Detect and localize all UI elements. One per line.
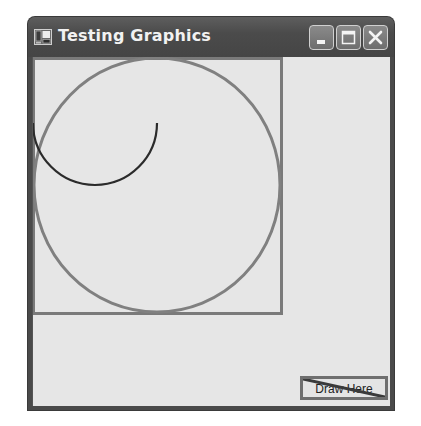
minimize-button[interactable] xyxy=(309,25,334,50)
title-bar[interactable]: Testing Graphics xyxy=(28,17,394,57)
draw-here-button[interactable]: Draw Here xyxy=(300,376,388,400)
window-title: Testing Graphics xyxy=(58,26,211,45)
drawing-canvas[interactable] xyxy=(32,57,390,406)
maximize-icon xyxy=(337,26,362,51)
drawn-circle xyxy=(34,58,280,312)
diagonal-line-overlay xyxy=(300,376,388,400)
minimize-icon xyxy=(310,26,335,51)
maximize-button[interactable] xyxy=(336,25,361,50)
app-window: Testing Graphics Draw Here xyxy=(28,17,394,410)
drawn-arc xyxy=(33,123,157,185)
application-icon xyxy=(34,29,52,45)
close-button[interactable] xyxy=(363,25,388,50)
close-icon xyxy=(364,26,389,51)
client-area[interactable]: Draw Here xyxy=(32,57,390,406)
